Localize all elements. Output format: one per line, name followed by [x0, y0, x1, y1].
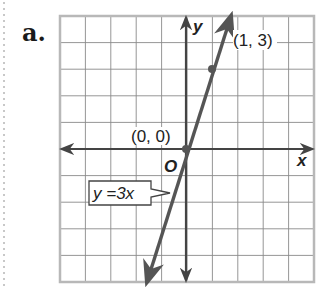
origin-point-label: (0, 0)	[131, 127, 171, 146]
point-1-3	[208, 65, 216, 73]
coordinate-plane: y x O (0, 0) (1, 3) y =3x	[0, 0, 334, 290]
y-axis-label: y	[192, 17, 204, 36]
point-origin	[182, 145, 190, 153]
graph-figure: a. y x O (0, 0) (1, 3) y =3x	[0, 0, 334, 290]
point-1-3-label: (1, 3)	[233, 31, 273, 50]
x-axis-label: x	[296, 151, 308, 170]
equation-label: y =3x	[92, 184, 135, 203]
origin-label: O	[164, 157, 177, 176]
